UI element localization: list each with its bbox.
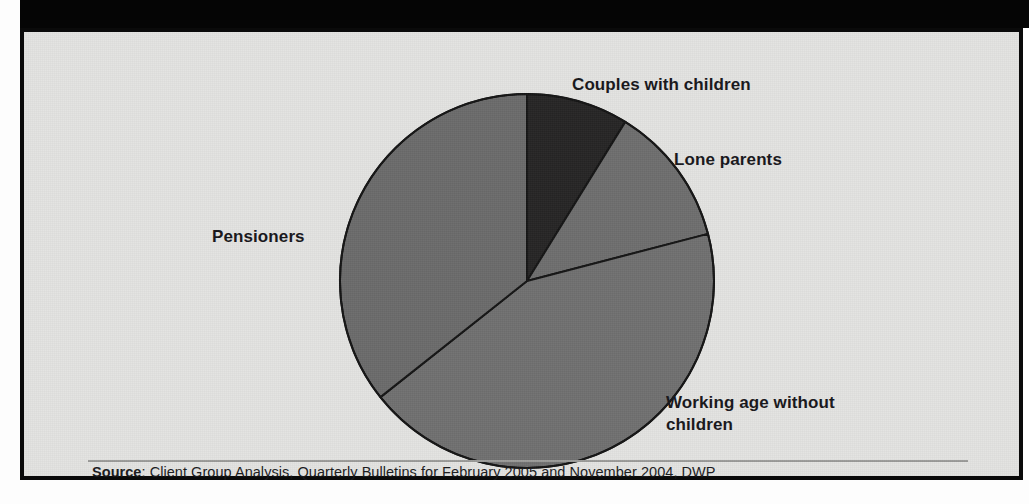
slice-label-working-age-without-children: Working age withoutchildren <box>666 392 896 436</box>
slice-label-working-age-line2: children <box>666 415 733 434</box>
pie-slice-group <box>340 94 714 468</box>
slice-label-working-age-line1: Working age without <box>666 393 835 412</box>
figure-container: Couples with children Lone parents Pensi… <box>0 0 1029 504</box>
source-note: Source: Client Group Analysis, Quarterly… <box>92 464 716 480</box>
chart-panel: Couples with children Lone parents Pensi… <box>20 28 1023 480</box>
top-black-band <box>20 0 1029 28</box>
source-divider <box>88 460 968 462</box>
slice-label-pensioners: Pensioners <box>212 226 305 248</box>
source-label: Source <box>92 464 141 480</box>
pie-chart: Couples with children Lone parents Pensi… <box>24 32 1027 484</box>
source-text: Client Group Analysis, Quarterly Bulleti… <box>146 464 716 480</box>
slice-label-couples-with-children: Couples with children <box>572 74 751 96</box>
slice-label-lone-parents: Lone parents <box>674 149 782 171</box>
page-left-gutter <box>0 0 20 504</box>
page-bottom-strip <box>0 480 1029 504</box>
